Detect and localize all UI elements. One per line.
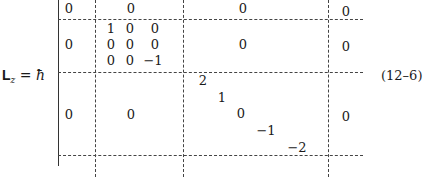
matrix-element: 0 [231,107,251,121]
matrix-element: 0 [59,108,79,122]
block-divider-v1 [95,0,96,177]
block-divider-h1 [58,19,363,20]
matrix-element: 0 [336,5,356,19]
lhs-operator: Lz = ħ [2,67,45,85]
block-divider-v2 [183,0,184,177]
matrix-element: 0 [101,54,121,68]
matrix-element: 0 [120,22,140,36]
matrix-element: 0 [101,38,121,52]
matrix-element: 0 [233,2,253,16]
matrix-element: 0 [59,2,79,16]
matrix-left-border [58,0,59,166]
matrix-element: 0 [120,54,140,68]
matrix-element: −1 [256,124,276,138]
block-divider-v3 [328,0,329,177]
matrix-element: 0 [59,38,79,52]
matrix-element: 0 [145,22,165,36]
hbar-factor: ħ [36,67,45,83]
equals-sign: = [15,67,36,83]
matrix-element: 0 [145,38,165,52]
matrix-element: −1 [143,54,163,68]
block-divider-h3 [58,155,363,156]
operator-symbol: L [2,67,11,83]
matrix-element: 0 [121,2,141,16]
equation-number: (12–6) [381,68,422,83]
matrix-element: 1 [101,22,121,36]
matrix-element: 0 [121,108,141,122]
block-divider-h2 [58,72,363,73]
matrix-element: 0 [233,38,253,52]
matrix-element: 2 [193,74,213,88]
matrix-element: −2 [287,141,307,155]
matrix-element: 1 [212,91,232,105]
matrix-element: 0 [336,40,356,54]
matrix-element: 0 [120,38,140,52]
matrix-element: 0 [336,110,356,124]
